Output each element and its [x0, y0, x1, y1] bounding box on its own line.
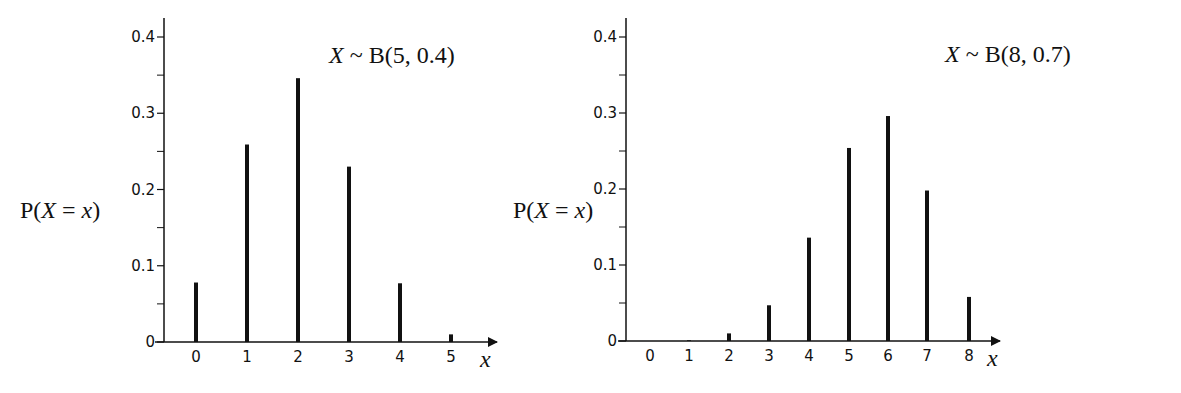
- y-axis-label: P(X = x): [20, 197, 100, 223]
- x-axis: 012345: [155, 342, 497, 366]
- x-tick-label: 2: [293, 348, 303, 366]
- y-tick-labels: 00.10.20.30.4: [131, 28, 155, 351]
- y-axis: 00.10.20.30.4: [131, 18, 164, 351]
- y-axis: 00.10.20.30.4: [593, 18, 626, 350]
- x-tick-label: 5: [844, 347, 854, 365]
- bar-x-0: [194, 283, 198, 342]
- chart-binomial-5-0.4: 00.10.20.30.4 012345 P(X = x) x X ~ B(5,…: [20, 18, 497, 372]
- x-tick-label: 3: [344, 348, 354, 366]
- bar-x-3: [347, 167, 351, 342]
- y-tick-label: 0: [145, 333, 155, 351]
- bar-x-2: [296, 78, 300, 342]
- bar-x-8: [967, 297, 971, 341]
- y-ticks: [157, 37, 164, 342]
- bars: [687, 116, 971, 341]
- y-axis-label: P(X = x): [513, 197, 593, 223]
- x-tick-label: 1: [684, 347, 694, 365]
- y-tick-label: 0.1: [593, 256, 617, 274]
- chart-title: X ~ B(5, 0.4): [328, 42, 455, 68]
- x-tick-label: 8: [964, 347, 974, 365]
- y-tick-label: 0: [607, 332, 617, 350]
- y-tick-label: 0.4: [131, 28, 155, 46]
- bar-x-2: [727, 333, 731, 341]
- chart-binomial-8-0.7: 00.10.20.30.4 012345678 P(X = x) x X ~ B…: [513, 18, 1071, 371]
- x-tick-label: 4: [804, 347, 814, 365]
- y-ticks: [619, 37, 626, 341]
- bar-x-4: [398, 283, 402, 342]
- x-tick-label: 5: [446, 348, 456, 366]
- bars: [194, 78, 453, 342]
- bar-x-6: [886, 116, 890, 341]
- bar-x-1: [245, 145, 249, 342]
- x-tick-label: 4: [395, 348, 405, 366]
- x-tick-label: 7: [922, 347, 932, 365]
- x-tick-labels: 012345678: [645, 347, 974, 365]
- x-tick-label: 0: [191, 348, 201, 366]
- bar-x-1: [687, 340, 691, 341]
- y-tick-label: 0.4: [593, 28, 617, 46]
- x-tick-labels: 012345: [191, 348, 456, 366]
- x-tick-label: 2: [724, 347, 734, 365]
- bar-x-7: [925, 191, 929, 341]
- figure-canvas: 00.10.20.30.4 012345 P(X = x) x X ~ B(5,…: [0, 0, 1181, 393]
- x-axis: 012345678: [618, 341, 1000, 365]
- y-tick-label: 0.2: [131, 181, 155, 199]
- y-tick-label: 0.3: [131, 104, 155, 122]
- y-tick-labels: 00.10.20.30.4: [593, 28, 617, 350]
- x-axis-label: x: [986, 345, 998, 371]
- y-tick-label: 0.1: [131, 257, 155, 275]
- bar-x-5: [847, 148, 851, 341]
- x-tick-label: 1: [242, 348, 252, 366]
- x-tick-label: 0: [645, 347, 655, 365]
- x-tick-label: 6: [883, 347, 893, 365]
- bar-x-3: [767, 305, 771, 341]
- x-tick-label: 3: [764, 347, 774, 365]
- y-tick-label: 0.2: [593, 180, 617, 198]
- chart-title: X ~ B(8, 0.7): [944, 41, 1071, 67]
- x-axis-label: x: [479, 346, 491, 372]
- y-tick-label: 0.3: [593, 104, 617, 122]
- bar-x-5: [449, 334, 453, 342]
- bar-x-4: [807, 238, 811, 341]
